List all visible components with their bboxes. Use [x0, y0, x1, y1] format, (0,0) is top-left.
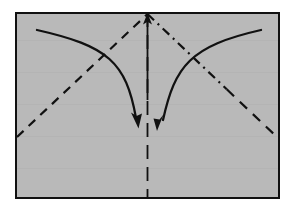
origami-figure-svg [0, 0, 291, 214]
origami-diagram-root [0, 0, 291, 214]
